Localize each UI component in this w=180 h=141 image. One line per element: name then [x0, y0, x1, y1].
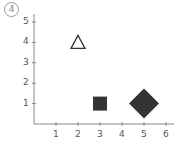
x-tick-label: 3: [97, 130, 103, 139]
x-tick-label: 1: [53, 130, 59, 139]
y-tick-label: 3: [23, 58, 29, 67]
diamond-marker: [129, 89, 159, 119]
y-tick-label: 2: [23, 78, 29, 87]
triangle-marker: [71, 35, 85, 48]
x-tick-label: 4: [119, 130, 125, 139]
y-tick-label: 4: [23, 37, 29, 46]
x-tick-label: 2: [75, 130, 81, 139]
data-markers: [71, 35, 159, 118]
x-tick-label: 5: [141, 130, 147, 139]
y-tick-label: 5: [23, 17, 29, 26]
y-tick-label: 1: [23, 99, 29, 108]
x-tick-label: 6: [163, 130, 169, 139]
square-marker: [93, 97, 107, 111]
